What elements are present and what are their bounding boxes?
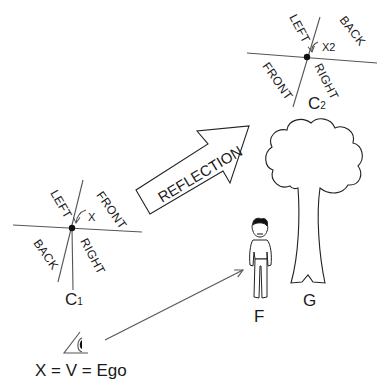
c2-rotation-arrow <box>312 42 318 52</box>
reflection-arrow: REFLECTION <box>136 126 249 214</box>
frame-c2: X2 LEFT BACK FRONT RIGHT C2 <box>247 12 377 113</box>
c1-name: C1 <box>65 290 83 309</box>
tree: G <box>266 119 363 310</box>
c1-rotation-arrow <box>76 210 86 223</box>
eye-icon <box>64 332 88 353</box>
c2-back-label: BACK <box>337 13 369 48</box>
c1-x-label: X <box>88 211 96 223</box>
c1-front-label: FRONT <box>94 189 130 232</box>
person-label: F <box>254 307 264 326</box>
c1-back-label: BACK <box>31 237 62 273</box>
ego-caption: X = V = Ego <box>35 361 127 380</box>
person-icon <box>250 218 272 298</box>
c1-left-label: LEFT <box>47 188 75 222</box>
ego: X = V = Ego <box>35 270 243 380</box>
c1-vertical-axis <box>72 228 73 290</box>
c2-horizontal-axis <box>247 53 377 63</box>
c2-name: C2 <box>308 94 326 113</box>
sight-arrow <box>105 270 243 340</box>
tree-label: G <box>303 291 316 310</box>
c1-right-label: RIGHT <box>77 236 108 277</box>
c2-left-label: LEFT <box>286 12 313 46</box>
c2-front-label: FRONT <box>260 60 296 103</box>
c2-origin-dot <box>304 54 310 60</box>
person: F <box>250 218 272 326</box>
c2-x-label: X2 <box>322 41 335 53</box>
diagram-canvas: X LEFT FRONT BACK RIGHT C1 X2 LEFT BACK … <box>0 0 389 391</box>
frame-c1: X LEFT FRONT BACK RIGHT C1 <box>13 180 142 309</box>
c1-origin-dot <box>69 225 75 231</box>
tree-icon <box>266 119 363 283</box>
